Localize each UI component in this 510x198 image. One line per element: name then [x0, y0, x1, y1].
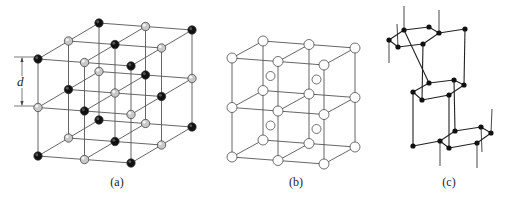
caption-b: (b)	[289, 175, 303, 189]
chain-atom-icon	[426, 24, 431, 29]
bond-line	[146, 75, 193, 79]
atom-highlight	[35, 153, 38, 156]
chain-bond	[440, 131, 455, 141]
atom-highlight	[128, 63, 131, 66]
bond-line	[69, 41, 116, 45]
chain-atom-icon	[420, 41, 425, 46]
atom-highlight	[189, 76, 192, 79]
interior-atom-icon	[266, 72, 275, 81]
bond-line	[85, 45, 116, 63]
atom-white-icon	[350, 93, 360, 103]
bond-line	[38, 59, 85, 63]
caption-a: (a)	[110, 175, 123, 189]
bond-line	[162, 79, 193, 97]
atom-gray-icon	[141, 119, 149, 127]
chain-bond	[423, 33, 439, 44]
arrowhead-up-icon	[20, 57, 23, 62]
atom-highlight	[66, 135, 69, 138]
bond-line	[115, 75, 146, 93]
bond-line	[146, 27, 193, 31]
atom-highlight	[35, 56, 38, 59]
atom-white-icon	[319, 60, 329, 70]
atom-highlight	[128, 160, 131, 163]
chain-atom-icon	[452, 128, 457, 133]
atom-white-icon	[304, 40, 314, 50]
bond-line	[115, 93, 162, 97]
atom-highlight	[159, 94, 162, 97]
chain-atom-icon	[478, 124, 483, 129]
bond-line	[263, 41, 309, 45]
atom-white-icon	[350, 142, 360, 152]
bond-line	[38, 108, 85, 112]
atom-white-icon	[319, 110, 329, 120]
bond-line	[69, 72, 100, 90]
bond-stub	[491, 109, 492, 133]
atom-highlight	[159, 142, 162, 145]
atom-black-icon	[127, 159, 135, 167]
atom-gray-icon	[127, 110, 135, 118]
bond-line	[278, 111, 324, 115]
bond-line	[309, 94, 355, 98]
bond-line	[131, 145, 162, 163]
chain-bond	[404, 30, 429, 83]
atom-black-icon	[127, 62, 135, 70]
atom-black-icon	[34, 55, 42, 63]
atom-gray-icon	[64, 37, 72, 45]
atom-black-icon	[188, 26, 196, 34]
atom-black-icon	[111, 40, 119, 48]
atom-white-icon	[258, 36, 268, 46]
atom-white-icon	[304, 89, 314, 99]
bond-line	[278, 161, 324, 165]
atom-black-icon	[141, 71, 149, 79]
atom-white-icon	[227, 103, 237, 113]
bond-line	[38, 156, 85, 160]
bond-line	[38, 90, 69, 108]
atom-black-icon	[64, 85, 72, 93]
bond-line	[232, 58, 278, 62]
interior-atom-icon	[312, 75, 321, 84]
chain-atom-icon	[410, 143, 415, 148]
bond-line	[131, 48, 162, 66]
chain-bond	[449, 85, 464, 95]
atom-gray-icon	[34, 103, 42, 111]
chain-bond	[455, 127, 481, 131]
atom-white-icon	[273, 156, 283, 166]
lattice-spacing-dimension: d	[14, 57, 34, 106]
atom-black-icon	[157, 92, 165, 100]
bond-line	[263, 140, 309, 144]
atom-highlight	[66, 87, 69, 90]
chain-atom-icon	[474, 140, 479, 145]
chain-bond	[413, 141, 440, 146]
bond-line	[69, 90, 116, 94]
bond-line	[309, 144, 355, 148]
atom-white-icon	[350, 43, 360, 53]
chain-bond	[449, 143, 477, 148]
atom-white-icon	[258, 86, 268, 96]
atom-highlight	[96, 20, 99, 23]
atom-gray-icon	[64, 134, 72, 142]
chain-bond	[404, 27, 429, 30]
bond-line	[38, 138, 69, 156]
atom-black-icon	[95, 19, 103, 27]
chain-atom-icon	[461, 82, 466, 87]
atom-highlight	[189, 27, 192, 30]
atom-white-icon	[227, 53, 237, 63]
atom-highlight	[82, 60, 85, 63]
atom-highlight	[143, 121, 146, 124]
atom-highlight	[159, 45, 162, 48]
atom-highlight	[96, 69, 99, 72]
bond-line	[85, 160, 132, 164]
chain-atom-icon	[426, 80, 431, 85]
chain-atom-icon	[386, 37, 391, 42]
bond-line	[99, 72, 146, 76]
bond-line	[99, 120, 146, 124]
bond-line	[115, 124, 146, 142]
atom-white-icon	[273, 106, 283, 116]
bond-line	[85, 93, 116, 111]
atom-black-icon	[188, 123, 196, 131]
bond-line	[232, 108, 278, 112]
chain-atom-icon	[437, 138, 442, 143]
bond-line	[309, 45, 355, 49]
lattice-atoms	[34, 19, 196, 167]
atom-white-icon	[258, 135, 268, 145]
